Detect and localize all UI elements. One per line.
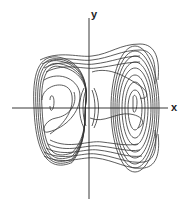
lobe-bridge-orbit bbox=[40, 44, 158, 80]
y-axis-label: y bbox=[91, 9, 97, 20]
left-lobe-inner-orbit bbox=[42, 85, 72, 134]
right-lobe-orbit bbox=[122, 75, 148, 145]
right-lobe-inner-orbit bbox=[133, 95, 137, 112]
phase-portrait-canvas bbox=[0, 0, 186, 206]
right-lobe-orbit bbox=[119, 68, 151, 152]
x-axis-label: x bbox=[171, 102, 177, 113]
right-lobe-orbit bbox=[111, 46, 159, 172]
right-lobe-orbit bbox=[128, 90, 142, 130]
right-lobe-orbit bbox=[115, 56, 155, 164]
